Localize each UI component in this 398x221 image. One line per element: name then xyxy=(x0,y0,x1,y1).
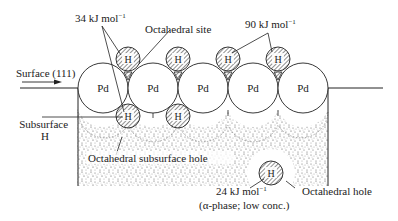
h-label: H xyxy=(224,54,231,65)
pd-label: Pd xyxy=(297,82,309,94)
octahedral-hole-label: Octahedral hole xyxy=(302,185,372,197)
alpha-phase-note: (α-phase; low conc.) xyxy=(199,199,290,212)
h-label: H xyxy=(174,111,181,122)
h-label: H xyxy=(124,111,131,122)
h-label: H xyxy=(274,54,281,65)
h-label: H xyxy=(174,54,181,65)
pd-hydrogen-diagram: Pd Pd Pd Pd Pd H H H xyxy=(0,0,398,221)
pd-label: Pd xyxy=(197,82,209,94)
octahedral-site-label: Octahedral site xyxy=(145,23,211,35)
pd-label: Pd xyxy=(247,82,259,94)
subsurface-label: Subsurface H xyxy=(19,118,71,142)
pd-label: Pd xyxy=(97,82,109,94)
surface-arrow xyxy=(22,80,62,85)
energy-label-34: 34 kJ mol−1 xyxy=(75,12,126,24)
h-label: H xyxy=(267,168,274,179)
octahedral-subsurface-hole-label: Octahedral subsurface hole xyxy=(88,152,208,164)
pd-label: Pd xyxy=(147,82,159,94)
h-label: H xyxy=(124,54,131,65)
energy-label-90: 90 kJ mol−1 xyxy=(245,18,296,30)
surface-label: Surface (111) xyxy=(16,67,76,80)
